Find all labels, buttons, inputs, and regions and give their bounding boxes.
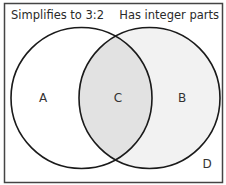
left-set-label: Simplifies to 3:2	[11, 8, 104, 22]
region-c-label: C	[114, 91, 122, 105]
region-b-label: B	[178, 91, 186, 105]
region-d-label: D	[202, 157, 211, 171]
region-a-label: A	[39, 91, 48, 105]
right-set-label: Has integer parts	[119, 8, 219, 22]
venn-diagram: Simplifies to 3:2 Has integer parts A C …	[0, 0, 226, 185]
venn-svg: Simplifies to 3:2 Has integer parts A C …	[0, 0, 226, 185]
